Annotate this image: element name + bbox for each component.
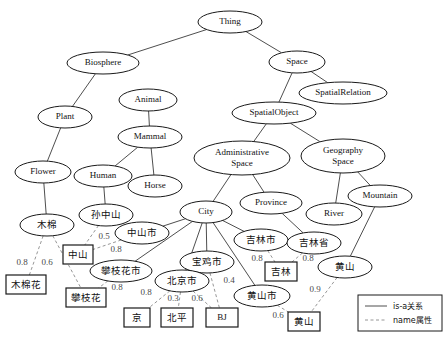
isa-edge-flower-plant: [47, 128, 60, 161]
class-node-sunzhongshan[interactable]: 孙中山: [79, 204, 133, 226]
isa-edge-spatialrelation-space: [311, 72, 328, 83]
class-node-zhongshanshi[interactable]: 中山市: [115, 222, 169, 244]
name-edge-sunzhongshan-b_zhongshan: [85, 226, 99, 245]
class-node-label: Space: [286, 56, 308, 66]
isa-edge-space-thing: [246, 32, 282, 53]
class-node-jilinshi[interactable]: 吉林市: [234, 229, 288, 251]
class-node-spatialrelation[interactable]: SpatialRelation: [299, 82, 387, 104]
class-node-adminspace[interactable]: AdministrativeSpace: [194, 141, 290, 175]
instance-node-b_huangshan[interactable]: 黄山: [288, 312, 320, 331]
class-node-thing[interactable]: Thing: [198, 11, 262, 33]
name-edge-baojishi-b_bj: [210, 273, 219, 308]
edge-weight-label: 0.6: [272, 310, 284, 320]
class-node-human[interactable]: Human: [74, 165, 132, 187]
class-node-label: Human: [90, 170, 117, 180]
class-node-jilinsheng[interactable]: 吉林省: [287, 232, 341, 254]
class-node-label: 吉林市: [246, 234, 276, 245]
name-edge-huangshan_m-b_huangshan: [311, 278, 337, 312]
class-node-label: SpatialObject: [250, 107, 299, 117]
edge-weight-label: 0.6: [41, 257, 53, 267]
class-node-label: 黄山: [335, 261, 355, 272]
class-node-label: 攀枝花市: [101, 265, 141, 276]
edge-weight-label: 0.5: [98, 231, 110, 241]
class-node-spatialobject[interactable]: SpatialObject: [232, 102, 316, 124]
instance-node-label: 中山: [68, 249, 88, 260]
isa-edge-mumian-flower: [44, 183, 46, 214]
class-node-mumian[interactable]: 木棉: [20, 214, 74, 236]
edge-weight-label: 0.3: [167, 293, 179, 303]
class-node-space[interactable]: Space: [269, 51, 325, 73]
legend-name-label: name属性: [393, 315, 432, 325]
edge-weight-label: 0.9: [309, 284, 321, 294]
class-node-label: 黄山市: [247, 290, 277, 301]
class-node-label: Geography: [323, 145, 363, 155]
isa-edge-spatialobject-space: [279, 73, 292, 102]
edge-weight-label: 0.8: [251, 253, 263, 263]
isa-edge-sunzhongshan-human: [104, 187, 105, 204]
isa-edge-human-mammal: [115, 147, 138, 166]
isa-edge-jilinshi-city: [223, 220, 245, 231]
class-node-label: 孙中山: [91, 209, 121, 220]
name-edge-beijingshi-b_beiping: [178, 292, 180, 308]
class-node-huangshanshi[interactable]: 黄山市: [234, 285, 290, 307]
class-node-province[interactable]: Province: [240, 192, 302, 214]
isa-edge-zhongshanshi-city: [163, 219, 185, 226]
instance-node-b_panzhihua[interactable]: 攀枝花: [66, 288, 106, 307]
instance-node-b_jing[interactable]: 京: [124, 308, 150, 327]
isa-edge-province-adminspace: [253, 175, 264, 193]
class-node-mammal[interactable]: Mammal: [118, 126, 182, 148]
class-node-flower[interactable]: Flower: [15, 161, 71, 183]
instance-node-b_jilin[interactable]: 吉林: [265, 262, 297, 281]
isa-edge-geospace-spatialobject: [290, 123, 320, 142]
class-node-label: Mountain: [363, 190, 398, 200]
class-node-label: Province: [255, 197, 287, 207]
isa-edge-adminspace-spatialobject: [254, 124, 267, 142]
instance-node-label: 木棉花: [11, 279, 41, 290]
edge-weight-label: 0.8: [16, 257, 28, 267]
instance-node-label: 黄山: [294, 316, 314, 327]
class-node-label: SpatialRelation: [315, 87, 371, 97]
edge-weight-label: 0.8: [302, 253, 314, 263]
instance-node-b_beiping[interactable]: 北平: [161, 308, 193, 327]
edge-weight-label: 0.8: [110, 244, 122, 254]
isa-edge-city-adminspace: [213, 175, 231, 202]
class-node-baojishi[interactable]: 宝鸡市: [180, 251, 234, 273]
instance-node-label: 北平: [167, 312, 187, 323]
class-node-geospace[interactable]: GeographySpace: [301, 139, 385, 173]
class-node-beijingshi[interactable]: 北京市: [155, 270, 209, 292]
class-node-label: Mammal: [134, 131, 167, 141]
instance-node-label: BJ: [217, 312, 227, 322]
edge-weight-label: 0.8: [140, 287, 152, 297]
instance-node-label: 攀枝花: [71, 292, 101, 303]
class-node-label: 北京市: [167, 275, 197, 286]
class-node-label: 吉林省: [299, 237, 329, 248]
class-node-animal[interactable]: Animal: [119, 89, 177, 111]
isa-edge-horse-mammal: [151, 148, 154, 175]
class-node-river[interactable]: River: [306, 203, 362, 225]
class-node-label: Plant: [56, 111, 75, 121]
class-node-label: 中山市: [127, 227, 157, 238]
class-node-label: Horse: [144, 180, 166, 190]
class-node-panzhihuashi[interactable]: 攀枝花市: [90, 260, 152, 282]
instance-node-b_bj[interactable]: BJ: [206, 308, 238, 327]
class-node-biosphere[interactable]: Biosphere: [67, 52, 139, 74]
isa-edge-river-geospace: [336, 173, 341, 203]
class-node-label: Space: [231, 158, 253, 168]
class-node-label: 木棉: [37, 219, 57, 230]
edge-weight-label: 0.8: [111, 282, 123, 292]
class-node-huangshan_m[interactable]: 黄山: [318, 256, 372, 278]
name-edge-jilinsheng-b_jilin: [292, 253, 302, 262]
instance-node-b_mumianhua[interactable]: 木棉花: [6, 275, 46, 294]
instance-node-b_zhongshan[interactable]: 中山: [63, 245, 93, 264]
class-node-horse[interactable]: Horse: [128, 175, 182, 197]
class-node-label: Space: [332, 156, 354, 166]
name-edge-panzhihuashi-b_panzhihua: [99, 281, 108, 288]
class-node-city[interactable]: City: [180, 201, 232, 223]
class-node-plant[interactable]: Plant: [38, 106, 92, 128]
isa-edge-plant-biosphere: [72, 74, 95, 107]
class-node-mountain[interactable]: Mountain: [348, 185, 412, 207]
class-node-label: City: [198, 206, 214, 216]
class-node-label: River: [324, 208, 344, 218]
class-node-label: 宝鸡市: [192, 256, 222, 267]
edge-weight-label: 0.6: [191, 293, 203, 303]
